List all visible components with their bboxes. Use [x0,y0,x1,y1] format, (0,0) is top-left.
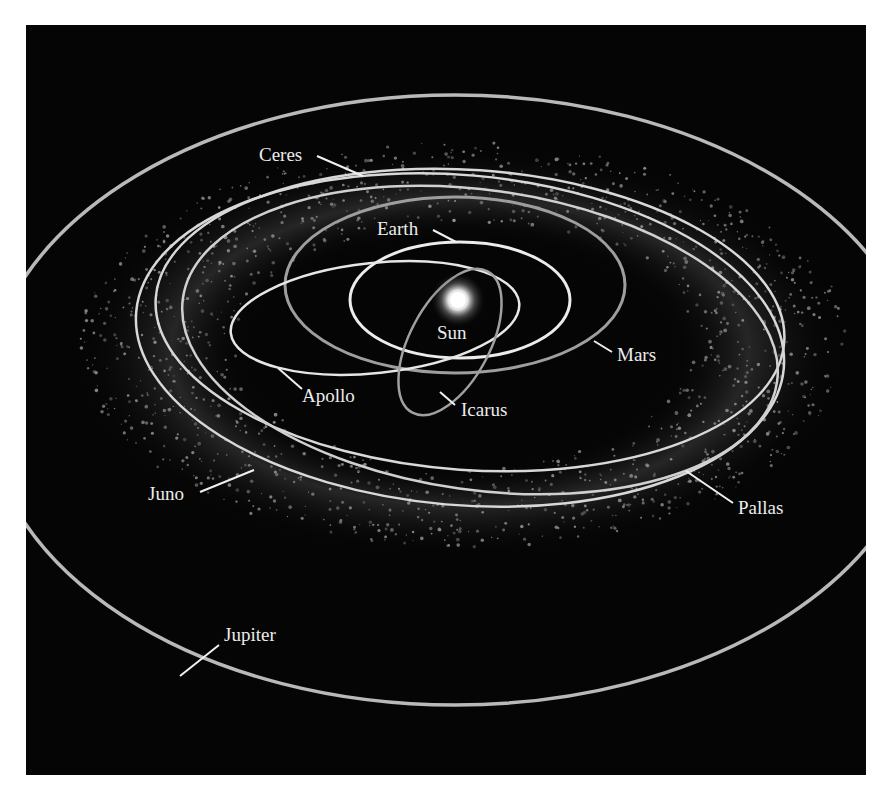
solar-system-diagram: Ceres Earth Sun Mars Apollo Icarus Juno … [26,25,866,775]
earth-label: Earth [377,218,419,239]
icarus-label: Icarus [461,399,507,420]
ceres-label: Ceres [259,144,302,165]
mars-label: Mars [617,344,656,365]
juno-label: Juno [148,483,184,504]
diagram-panel: Ceres Earth Sun Mars Apollo Icarus Juno … [26,25,866,775]
sun-label: Sun [437,322,467,343]
apollo-label: Apollo [302,385,355,406]
sun-icon [450,292,466,308]
jupiter-label: Jupiter [224,624,276,645]
asteroid-belt [75,147,845,557]
pallas-label: Pallas [738,497,783,518]
